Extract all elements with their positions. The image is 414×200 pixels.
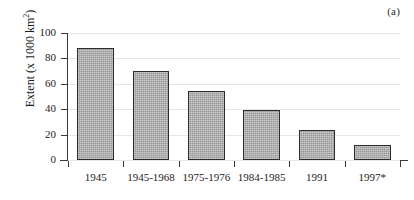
x-axis-tick: [289, 161, 290, 167]
bar: [354, 145, 391, 160]
bar: [243, 110, 280, 160]
gridline: [68, 58, 400, 59]
gridline: [68, 109, 400, 110]
x-axis-tick-label: 1975-1976: [179, 171, 234, 183]
y-axis-title-tail: ): [23, 10, 37, 14]
y-axis-tick: [61, 109, 68, 110]
y-axis-tick-label: 80: [26, 52, 56, 63]
x-axis-tick-label: 1984-1985: [234, 171, 289, 183]
y-axis-tick-label: 0: [26, 154, 56, 165]
y-axis-tick: [61, 84, 68, 85]
panel-label: (a): [387, 5, 400, 17]
x-axis-tick-label: 1997*: [345, 171, 400, 183]
bar: [133, 71, 170, 160]
y-axis-tick-label: 40: [26, 103, 56, 114]
gridline: [68, 84, 400, 85]
x-axis-tick-label: 1991: [289, 171, 344, 183]
gridline: [68, 160, 400, 161]
y-axis-title-superscript: 2: [22, 14, 31, 18]
x-axis-tick: [234, 161, 235, 167]
x-axis-tick: [179, 161, 180, 167]
y-axis-tick: [61, 33, 68, 34]
gridline: [68, 33, 400, 34]
x-axis-tick-label: 1945-1968: [123, 171, 178, 183]
plot-area: [68, 33, 400, 160]
y-axis-tick-label: 100: [26, 27, 56, 38]
y-axis-tick: [61, 160, 68, 161]
x-axis-tick: [345, 161, 346, 167]
y-axis-tick-label: 20: [26, 129, 56, 140]
bar: [77, 48, 114, 160]
x-axis-tick-label: 1945: [68, 171, 123, 183]
bar: [299, 130, 336, 160]
y-axis-tick: [61, 135, 68, 136]
figure-panel: (a) Extent (x 1000 km2) 100806040200 194…: [0, 0, 414, 200]
gridline: [68, 135, 400, 136]
y-axis-tick: [61, 58, 68, 59]
x-axis-tick: [400, 161, 401, 167]
y-axis-tick-label: 60: [26, 78, 56, 89]
x-axis-tick: [68, 161, 69, 167]
x-axis-tick: [123, 161, 124, 167]
bar: [188, 91, 225, 160]
